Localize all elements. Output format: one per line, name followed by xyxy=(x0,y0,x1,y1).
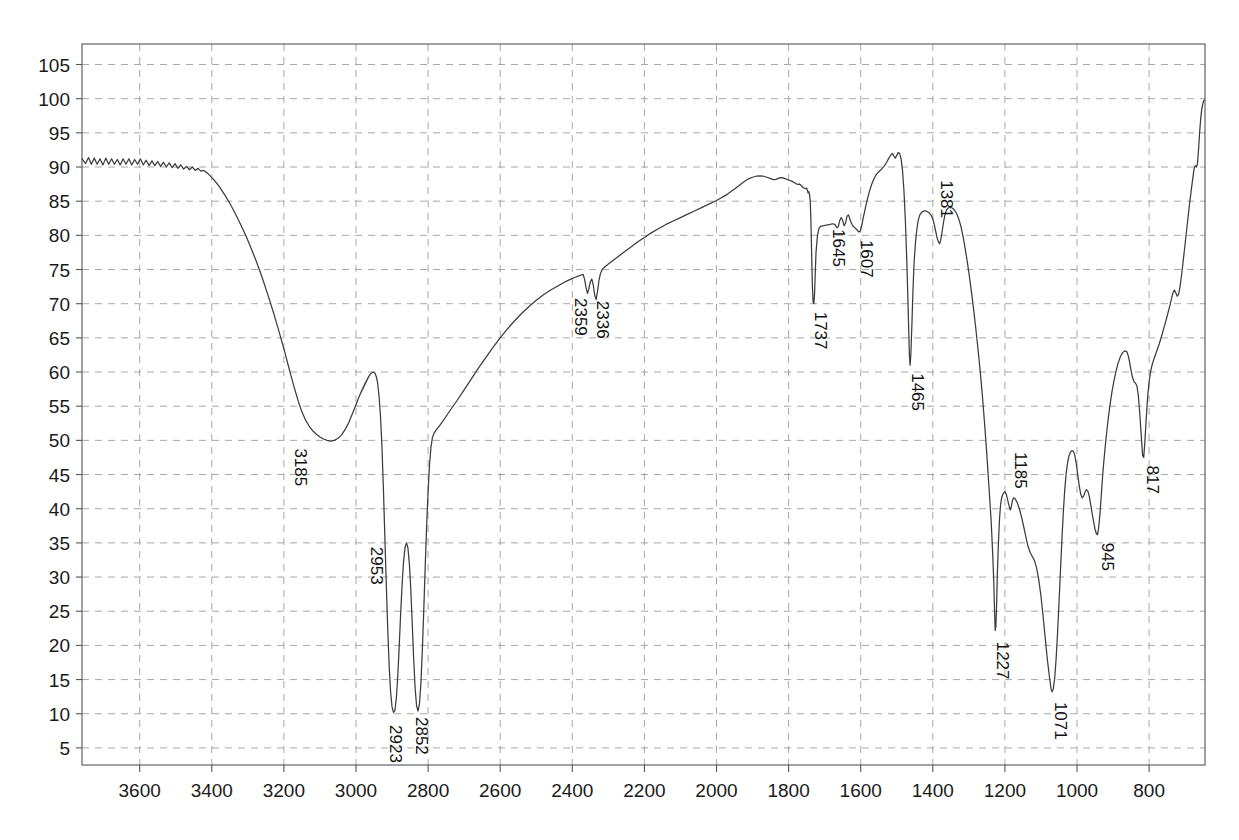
y-tick-label: 15 xyxy=(49,670,70,691)
x-tick-label: 2200 xyxy=(623,780,665,801)
ir-spectrum-page: 3185295329232852235923361737164516071465… xyxy=(0,0,1239,840)
y-tick-label: 5 xyxy=(59,738,70,759)
y-tick-label: 105 xyxy=(38,55,70,76)
x-tick-label: 3600 xyxy=(119,780,161,801)
y-tick-label: 70 xyxy=(49,294,70,315)
x-tick-label: 3400 xyxy=(191,780,233,801)
y-tick-label: 95 xyxy=(49,123,70,144)
y-tick-label: 25 xyxy=(49,601,70,622)
y-tick-label: 80 xyxy=(49,225,70,246)
x-tick-label: 1000 xyxy=(1056,780,1098,801)
peak-label: 2336 xyxy=(593,301,612,339)
x-tick-label: 1600 xyxy=(840,780,882,801)
x-tick-label: 2600 xyxy=(479,780,521,801)
x-tick-label: 2800 xyxy=(407,780,449,801)
peak-label: 1607 xyxy=(857,240,876,278)
y-tick-label: 40 xyxy=(49,499,70,520)
peak-label: 1737 xyxy=(811,312,830,350)
peak-label: 3185 xyxy=(291,448,310,486)
peak-label: 945 xyxy=(1098,543,1117,571)
x-tick-label: 3000 xyxy=(335,780,377,801)
peak-label: 1645 xyxy=(829,229,848,267)
peak-label: 2953 xyxy=(367,547,386,585)
y-tick-label: 35 xyxy=(49,533,70,554)
y-tick-label: 20 xyxy=(49,635,70,656)
y-tick-label: 45 xyxy=(49,465,70,486)
peak-label: 1227 xyxy=(993,642,1012,680)
peak-label: 2359 xyxy=(571,298,590,336)
x-tick-label: 800 xyxy=(1133,780,1165,801)
peak-label: 1071 xyxy=(1051,702,1070,740)
peak-label: 817 xyxy=(1143,466,1162,494)
y-tick-label: 100 xyxy=(38,89,70,110)
y-tick-label: 60 xyxy=(49,362,70,383)
y-tick-label: 85 xyxy=(49,191,70,212)
x-tick-label: 1400 xyxy=(912,780,954,801)
y-tick-label: 75 xyxy=(49,260,70,281)
x-tick-label: 1800 xyxy=(767,780,809,801)
peak-label: 1465 xyxy=(908,373,927,411)
y-tick-label: 65 xyxy=(49,328,70,349)
x-tick-label: 2000 xyxy=(695,780,737,801)
x-tick-label: 2400 xyxy=(551,780,593,801)
y-tick-label: 10 xyxy=(49,704,70,725)
y-tick-label: 50 xyxy=(49,430,70,451)
peak-label: 1381 xyxy=(937,180,956,218)
y-tick-label: 55 xyxy=(49,396,70,417)
y-tick-label: 30 xyxy=(49,567,70,588)
y-tick-label: 90 xyxy=(49,157,70,178)
peak-label: 1185 xyxy=(1011,452,1030,489)
peak-label: 2852 xyxy=(412,717,431,755)
x-tick-label: 3200 xyxy=(263,780,305,801)
ir-spectrum-chart: 3185295329232852235923361737164516071465… xyxy=(0,0,1239,840)
peak-label: 2923 xyxy=(386,725,405,763)
x-tick-label: 1200 xyxy=(984,780,1026,801)
plot-background xyxy=(82,44,1205,765)
